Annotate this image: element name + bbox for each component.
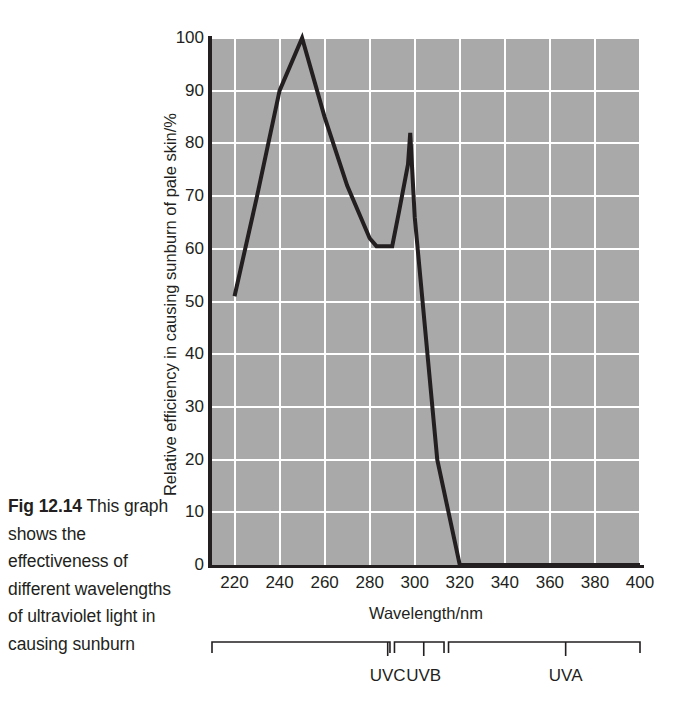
y-axis-tick-label: 40 (158, 344, 204, 364)
y-axis-tick-label: 50 (158, 292, 204, 312)
data-curve (212, 38, 640, 565)
band-bracket-uva (449, 642, 640, 656)
y-axis-tick-label: 70 (158, 186, 204, 206)
chart-figure: Relative efficiency in causing sunburn o… (0, 0, 674, 707)
x-axis-title: Wavelength/nm (212, 604, 640, 623)
y-axis-tick-label: 10 (158, 502, 204, 522)
y-axis-tick-label: 100 (158, 28, 204, 48)
x-axis-tick-labels: 220240260280300320340360380400 (0, 573, 674, 599)
band-bracket-uvb (394, 642, 444, 656)
y-axis-tick-label: 0 (158, 555, 204, 575)
uv-band-brackets (0, 636, 674, 666)
x-axis-tick-label: 400 (610, 573, 670, 593)
y-axis-tick-label: 90 (158, 81, 204, 101)
y-axis-tick-label: 30 (158, 397, 204, 417)
y-axis-tick-label: 80 (158, 133, 204, 153)
y-axis-tick-label: 20 (158, 450, 204, 470)
y-axis-tick-labels: 0102030405060708090100 (152, 0, 204, 707)
band-bracket-uvc (212, 642, 390, 656)
y-axis-tick-label: 60 (158, 239, 204, 259)
band-label-uvb: UVB (364, 666, 484, 686)
band-label-uva: UVA (506, 666, 626, 686)
